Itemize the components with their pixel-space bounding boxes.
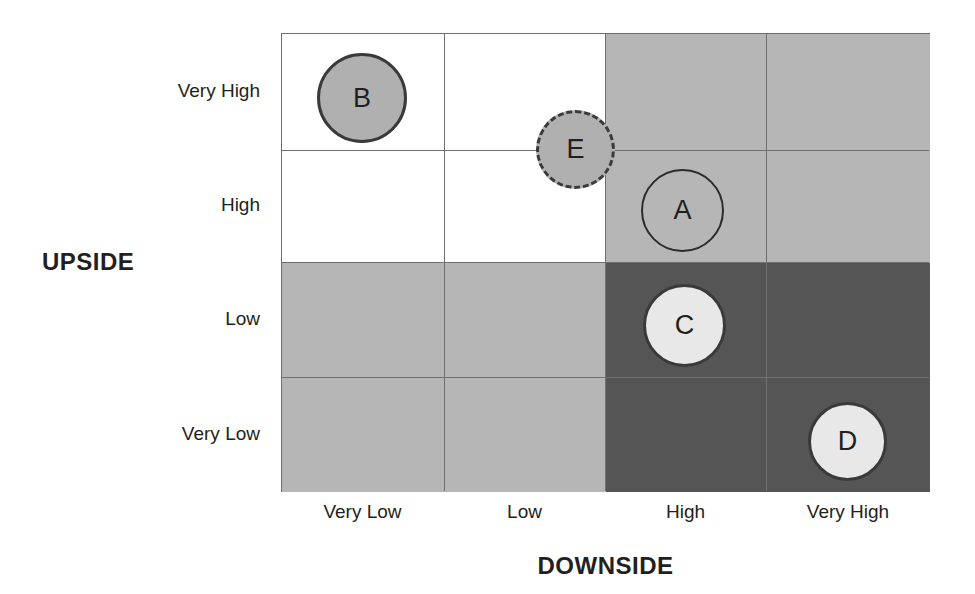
x-tick-label-very-low: Very Low <box>281 500 444 524</box>
x-tick-label-very-high: Very High <box>766 500 930 524</box>
cell-r2c4 <box>767 151 930 263</box>
bubble-a[interactable]: A <box>641 169 724 252</box>
bubble-e[interactable]: E <box>536 110 615 189</box>
bubble-b-label: B <box>353 85 371 112</box>
cell-r4c3 <box>606 378 767 492</box>
bubble-c[interactable]: C <box>643 284 726 367</box>
cell-r3c1 <box>282 263 445 378</box>
y-tick-label-low: Low <box>70 308 260 330</box>
bubble-a-label: A <box>673 197 691 224</box>
cell-r4c2 <box>445 378 606 492</box>
x-axis-tick-labels: Very Low Low High Very High <box>281 500 930 530</box>
bubble-d-label: D <box>838 428 858 455</box>
y-tick-label-very-low: Very Low <box>70 423 260 445</box>
cell-r1c4 <box>767 34 930 151</box>
y-axis-tick-labels: Very High High Low Very Low <box>70 33 270 492</box>
x-axis-title: DOWNSIDE <box>281 552 930 580</box>
x-tick-label-high: High <box>605 500 766 524</box>
bubble-e-label: E <box>566 136 584 163</box>
cell-r3c2 <box>445 263 606 378</box>
cell-r3c4 <box>767 263 930 378</box>
y-tick-label-very-high: Very High <box>70 80 260 102</box>
bubble-matrix-chart: UPSIDE Very High High Low Very Low <box>0 0 975 594</box>
bubble-c-label: C <box>675 312 695 339</box>
y-tick-label-high: High <box>70 194 260 216</box>
bubble-d[interactable]: D <box>808 402 887 481</box>
cell-r1c3 <box>606 34 767 151</box>
cell-r4c1 <box>282 378 445 492</box>
cell-r2c1 <box>282 151 445 263</box>
bubble-b[interactable]: B <box>317 53 407 143</box>
x-tick-label-low: Low <box>444 500 605 524</box>
